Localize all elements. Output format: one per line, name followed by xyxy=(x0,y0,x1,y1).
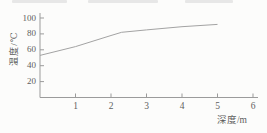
y-tick-label-60: 60 xyxy=(14,45,36,54)
x-tick-label-2: 2 xyxy=(103,102,119,111)
x-tick-label-5: 5 xyxy=(210,102,226,111)
x-tick-label-3: 3 xyxy=(139,102,155,111)
x-tick-label-6: 6 xyxy=(245,102,261,111)
y-tick-label-20: 20 xyxy=(14,77,36,86)
temperature-curve xyxy=(40,24,218,55)
temperature-depth-chart-figure: 温度/℃ 深度/m 20406080100123456 xyxy=(0,0,267,133)
x-tick-label-1: 1 xyxy=(68,102,84,111)
x-axis-label: 深度/m xyxy=(210,112,254,126)
y-tick-label-40: 40 xyxy=(14,61,36,70)
y-tick-label-80: 80 xyxy=(14,29,36,38)
y-tick-label-100: 100 xyxy=(14,14,36,23)
x-tick-label-4: 4 xyxy=(174,102,190,111)
